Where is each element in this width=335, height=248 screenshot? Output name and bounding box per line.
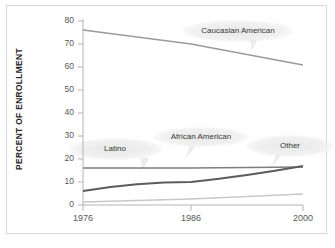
callout-bubble-other: [246, 135, 334, 167]
series-label-african-american: African American: [156, 132, 246, 142]
y-tick-label-70: 70: [52, 39, 74, 48]
y-tick-label-30: 30: [52, 131, 74, 140]
y-tick-label-10: 10: [52, 177, 74, 186]
y-axis-label: PERCENT OF ENROLLMENT: [14, 44, 24, 174]
y-tick-label-40: 40: [52, 108, 74, 117]
y-tick-label-50: 50: [52, 85, 74, 94]
series-line-latino: [83, 166, 303, 191]
x-tick-label-2000: 2000: [283, 213, 323, 223]
y-tick-label-60: 60: [52, 62, 74, 71]
series-label-caucasian-american: Caucasian American: [188, 26, 288, 36]
y-tick-marks: [78, 21, 83, 205]
line-chart-canvas: [0, 0, 335, 248]
series-label-other: Other: [255, 141, 325, 151]
x-tick-marks: [83, 205, 303, 211]
y-tick-label-20: 20: [52, 154, 74, 163]
y-tick-label-80: 80: [52, 16, 74, 25]
callout-bubble-caucasian-american: [182, 20, 294, 52]
x-tick-label-1986: 1986: [171, 213, 211, 223]
series-line-african-american: [83, 167, 303, 168]
chart-figure: PERCENT OF ENROLLMENT 80 70 60 50 40 30 …: [0, 0, 335, 248]
y-tick-label-0: 0: [52, 200, 74, 209]
series-label-latino: Latino: [80, 144, 150, 154]
series-line-other: [83, 194, 303, 202]
callout-bubble-latino: [68, 138, 162, 171]
x-tick-label-1976: 1976: [63, 213, 103, 223]
